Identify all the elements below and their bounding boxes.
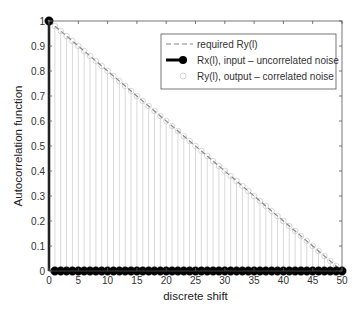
- y-tick-label: 0.6: [31, 116, 45, 127]
- y-tick-label: 0.4: [31, 166, 45, 177]
- legend-rx-label: Rx(l), input – uncorrelated noise: [197, 55, 339, 66]
- legend-ry-label: Ry(l), output – correlated noise: [197, 71, 334, 82]
- autocorrelation-chart: 05101520253035404550 00.10.20.30.40.50.6…: [0, 0, 364, 314]
- x-tick-label: 10: [102, 275, 114, 286]
- x-tick-label: 30: [219, 275, 231, 286]
- x-tick-label: 5: [76, 275, 82, 286]
- x-tick-label: 20: [161, 275, 173, 286]
- y-tick-label: 1: [39, 16, 45, 27]
- x-tick-label: 35: [249, 275, 261, 286]
- y-tick-label: 0.9: [31, 41, 45, 52]
- x-tick-label: 50: [336, 275, 348, 286]
- y-tick-label: 0.1: [31, 241, 45, 252]
- legend-rx-swatch-marker: [179, 56, 187, 64]
- x-tick-label: 25: [190, 275, 202, 286]
- y-axis-label: Autocorrelation function: [12, 86, 24, 207]
- legend-required-label: required Ry(l): [197, 39, 258, 50]
- legend: required Ry(l) Rx(l), input – uncorrelat…: [161, 34, 339, 89]
- x-tick-label: 40: [278, 275, 290, 286]
- x-tick-label: 0: [46, 275, 52, 286]
- y-tick-label: 0.8: [31, 66, 45, 77]
- y-tick-label: 0.2: [31, 216, 45, 227]
- x-tick-label: 15: [131, 275, 143, 286]
- y-tick-label: 0: [39, 266, 45, 277]
- y-tick-label: 0.5: [31, 141, 45, 152]
- y-tick-label: 0.3: [31, 191, 45, 202]
- x-tick-label: 45: [307, 275, 319, 286]
- y-tick-label: 0.7: [31, 91, 45, 102]
- x-axis-label: discrete shift: [163, 290, 228, 302]
